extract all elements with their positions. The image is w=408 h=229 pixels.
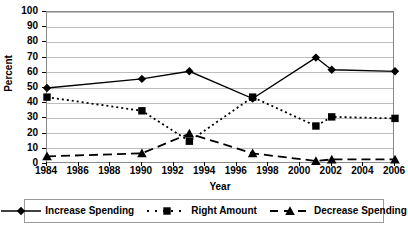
y-axis-tick-labels: 0102030405060708090100 [0, 0, 44, 176]
x-tick-label: 1994 [193, 166, 215, 176]
x-tick-mark [78, 162, 79, 166]
data-point-marker [391, 67, 399, 75]
data-point-marker [43, 84, 51, 92]
legend-entry[interactable]: Right Amount [147, 205, 257, 217]
y-tick-label: 30 [27, 112, 38, 122]
x-tick-label: 2002 [320, 166, 342, 176]
x-tick-label: 1986 [67, 166, 89, 176]
x-tick-label: 1984 [35, 166, 57, 176]
x-tick-mark [331, 162, 332, 166]
series-line [47, 97, 395, 141]
series-right-amount [43, 93, 398, 144]
x-tick-label: 1998 [256, 166, 278, 176]
series-line [47, 134, 395, 161]
legend-entry[interactable]: Decrease Spending [270, 205, 407, 217]
x-tick-label: 2006 [383, 166, 405, 176]
legend-label: Right Amount [191, 206, 257, 216]
data-point-marker [391, 115, 398, 122]
data-point-marker [17, 207, 25, 215]
x-tick-mark [299, 162, 300, 166]
y-tick-label: 90 [27, 21, 38, 31]
legend-swatch-square-icon [147, 205, 187, 217]
y-tick-label: 60 [27, 67, 38, 77]
data-point-marker [163, 207, 170, 214]
line-chart: Percent 0102030405060708090100 198419861… [0, 0, 408, 229]
y-tick-label: 40 [27, 97, 38, 107]
series-increase-spending [43, 53, 399, 102]
data-point-marker [185, 129, 195, 138]
x-axis-tick-labels: 1984198619881990199219941996199820002002… [46, 166, 394, 180]
x-tick-mark [46, 162, 47, 166]
legend-entry[interactable]: Increase Spending [1, 205, 134, 217]
y-tick-label: 100 [21, 6, 38, 16]
x-tick-mark [362, 162, 363, 166]
y-tick-label: 10 [27, 143, 38, 153]
plot-area [46, 11, 394, 163]
legend-swatch-triangle-icon [270, 205, 310, 217]
x-tick-label: 1996 [225, 166, 247, 176]
data-point-marker [138, 107, 145, 114]
x-tick-label: 1988 [98, 166, 120, 176]
data-point-marker [249, 93, 256, 100]
x-tick-label: 1990 [130, 166, 152, 176]
data-point-marker [138, 75, 146, 83]
data-point-marker [43, 93, 50, 100]
x-tick-label: 2004 [351, 166, 373, 176]
x-tick-mark [109, 162, 110, 166]
x-tick-mark [267, 162, 268, 166]
x-tick-mark [141, 162, 142, 166]
data-point-marker [186, 138, 193, 145]
x-tick-mark [204, 162, 205, 166]
series-decrease-spending [42, 129, 400, 165]
legend-label: Decrease Spending [314, 206, 407, 216]
y-tick-label: 50 [27, 82, 38, 92]
x-axis-title: Year [46, 181, 394, 192]
data-point-marker [328, 113, 335, 120]
x-tick-mark [173, 162, 174, 166]
series-lines [47, 12, 395, 164]
data-point-marker [312, 122, 319, 129]
x-tick-label: 2000 [288, 166, 310, 176]
legend-swatch-diamond-icon [1, 205, 41, 217]
x-tick-label: 1992 [161, 166, 183, 176]
y-tick-label: 80 [27, 36, 38, 46]
x-tick-mark [394, 162, 395, 166]
x-tick-mark [236, 162, 237, 166]
series-line [47, 58, 395, 99]
y-tick-label: 20 [27, 128, 38, 138]
data-point-marker [185, 67, 193, 75]
legend-label: Increase Spending [45, 206, 134, 216]
y-tick-label: 70 [27, 52, 38, 62]
chart-legend: Increase SpendingRight AmountDecrease Sp… [24, 199, 384, 223]
